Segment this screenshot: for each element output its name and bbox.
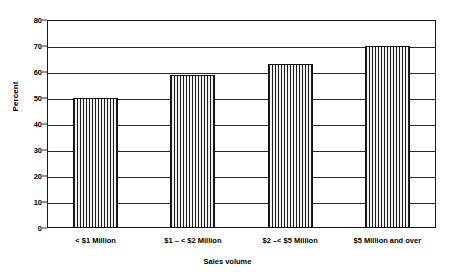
x-tick-label-3: $2 –< $5 Million [263, 236, 318, 245]
y-tick-label-70: 70 [18, 42, 42, 51]
bar-3 [268, 64, 313, 228]
y-tick-label-10: 10 [18, 198, 42, 207]
bar-4 [365, 46, 410, 228]
x-tick-label-1: < $1 Million [75, 236, 116, 245]
y-tick-label-0: 0 [18, 224, 42, 233]
bar-1 [73, 98, 118, 228]
x-tick-label-2: $1 – < $2 Million [164, 236, 221, 245]
bars-group [47, 20, 436, 228]
y-tick-label-50: 50 [18, 94, 42, 103]
y-tick-label-30: 30 [18, 146, 42, 155]
bar-2 [170, 75, 215, 228]
bar-chart: Percent 01020304050607080 < $1 Million$1… [0, 0, 455, 276]
x-axis-title: Sales volume [0, 257, 455, 266]
y-tick-label-40: 40 [18, 120, 42, 129]
y-tick-label-80: 80 [18, 16, 42, 25]
y-tick-label-60: 60 [18, 68, 42, 77]
y-tick-label-20: 20 [18, 172, 42, 181]
x-tick-label-4: $5 Million and over [354, 236, 422, 245]
